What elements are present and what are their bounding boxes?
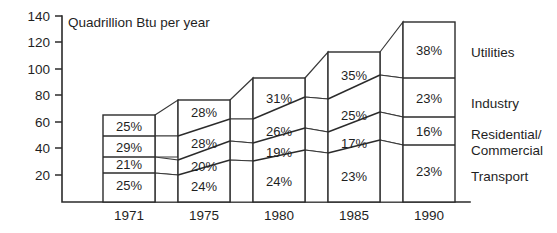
x-tick-label-1990: 1990 — [414, 208, 444, 223]
segment-label-1980-transport: 24% — [266, 174, 292, 189]
depth-face-1985-1990-industry — [380, 75, 403, 117]
depth-face-1971-1975-transport — [155, 173, 178, 202]
y-tick-label: 80 — [35, 88, 50, 103]
depth-face-1985-1990-utilities — [380, 22, 403, 78]
segment-label-1975-transport: 24% — [191, 179, 217, 194]
segment-label-1971-industry: 29% — [116, 140, 142, 155]
y-tick-label: 120 — [27, 35, 50, 50]
stacked-area-bar-chart: 140 120 100 80 60 40 20 Quadrillion Btu … — [0, 0, 557, 233]
segment-label-1990-industry: 23% — [416, 91, 442, 106]
bar-1990[interactable]: 38% 23% 16% 23% — [403, 22, 455, 202]
depth-face-1971-1975-rescom — [155, 157, 178, 175]
y-tick-label: 100 — [27, 62, 50, 77]
chart-svg: 140 120 100 80 60 40 20 Quadrillion Btu … — [0, 0, 557, 233]
legend-item-residential-line1: Residential/ — [471, 127, 542, 142]
segment-label-1980-rescom: 19% — [266, 145, 292, 160]
depth-face-1980-1985-transport — [305, 150, 328, 202]
depth-face-1975-1980-industry — [230, 119, 253, 143]
segment-label-1985-rescom: 17% — [341, 136, 367, 151]
depth-face-1975-1980-rescom — [230, 141, 253, 161]
bar-1971[interactable]: 25% 29% 21% 25% — [103, 115, 155, 202]
y-tick-label: 20 — [35, 168, 50, 183]
x-tick-labels: 1971 1975 1980 1985 1990 — [114, 208, 444, 223]
segment-label-1990-transport: 23% — [416, 164, 442, 179]
depth-face-1971-1975-utilities — [155, 100, 178, 136]
legend-item-industry: Industry — [471, 96, 519, 111]
y-tick-labels: 140 120 100 80 60 40 20 — [27, 9, 50, 183]
bar-1980[interactable]: 31% 26% 19% 24% — [253, 78, 305, 202]
depth-face-1980-1985-industry — [305, 97, 328, 132]
x-tick-label-1985: 1985 — [339, 208, 369, 223]
x-tick-label-1971: 1971 — [114, 208, 144, 223]
depth-face-1985-1990-rescom — [380, 112, 403, 145]
bar-1985[interactable]: 35% 25% 17% 23% — [328, 52, 380, 202]
y-tick-label: 60 — [35, 115, 50, 130]
legend-item-utilities: Utilities — [471, 45, 515, 60]
bar-1975[interactable]: 28% 28% 20% 24% — [178, 100, 230, 202]
segment-label-1985-industry: 25% — [341, 108, 367, 123]
y-tick-label: 40 — [35, 141, 50, 156]
legend-item-residential-line2: Commercial — [471, 143, 543, 158]
chart-title: Quadrillion Btu per year — [68, 15, 210, 30]
segment-label-1980-industry: 26% — [266, 124, 292, 139]
y-tick-label: 140 — [27, 9, 50, 24]
segment-label-1975-rescom: 20% — [191, 159, 217, 174]
segment-label-1985-transport: 23% — [341, 169, 367, 184]
segment-label-1971-rescom: 21% — [116, 157, 142, 172]
segment-label-1990-rescom: 16% — [416, 124, 442, 139]
segment-label-1971-transport: 25% — [116, 178, 142, 193]
depth-face-1985-1990-transport — [380, 140, 403, 202]
x-tick-label-1980: 1980 — [264, 208, 294, 223]
depth-face-1975-1980-utilities — [230, 78, 253, 119]
segment-label-1985-utilities: 35% — [341, 68, 367, 83]
x-tick-label-1975: 1975 — [189, 208, 219, 223]
depth-face-1980-1985-rescom — [305, 128, 328, 153]
depth-face-1980-1985-utilities — [305, 52, 328, 99]
segment-label-1971-utilities: 25% — [116, 119, 142, 134]
segment-label-1975-industry: 28% — [191, 136, 217, 151]
depth-face-1971-1975-industry — [155, 136, 178, 157]
depth-face-1975-1980-transport — [230, 160, 253, 202]
legend-item-transport: Transport — [471, 169, 529, 184]
segment-label-1975-utilities: 28% — [191, 105, 217, 120]
legend: Utilities Industry Residential/ Commerci… — [471, 45, 543, 184]
segment-label-1980-utilities: 31% — [266, 91, 292, 106]
segment-label-1990-utilities: 38% — [416, 43, 442, 58]
